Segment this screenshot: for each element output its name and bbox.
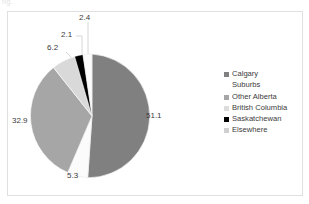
legend-label-other-alberta: Other Alberta: [232, 93, 277, 101]
data-label-other-alberta: 32.9: [12, 117, 28, 125]
legend-label-british-columbia: British Columbia: [232, 104, 287, 112]
legend-swatch-icon-saskatchewan: [224, 117, 229, 122]
pie-chart-figure: fig.: [0, 0, 309, 204]
data-label-elsewhere-upper: 2.4: [79, 14, 90, 22]
legend-swatch-icon-british-columbia: [224, 106, 229, 111]
legend-item-british-columbia[interactable]: British Columbia: [224, 104, 306, 112]
legend-label-calgary-suburbs: Calgary: [232, 70, 258, 78]
data-label-saskatchewan: 2.1: [61, 31, 72, 39]
chart-legend: Calgary Suburbs Other Alberta British Co…: [224, 70, 306, 137]
legend-item-elsewhere[interactable]: Elsewhere: [224, 126, 306, 134]
leader-line-2-1: [76, 36, 82, 56]
data-label-elsewhere-lower: 5.3: [67, 172, 78, 180]
legend-swatch-icon-calgary-suburbs: [224, 72, 229, 77]
data-label-calgary-suburbs: 51.1: [146, 112, 162, 120]
legend-item-calgary-suburbs[interactable]: Calgary: [224, 70, 306, 78]
pie-plot-area: 51.1 5.3 32.9 6.2 2.1 2.4: [0, 0, 215, 204]
legend-item-saskatchewan[interactable]: Saskatchewan: [224, 115, 306, 123]
legend-swatch-icon-elsewhere: [224, 128, 229, 133]
data-label-british-columbia: 6.2: [47, 44, 58, 52]
pie-svg: [0, 0, 215, 204]
pie-slices: [30, 54, 149, 178]
legend-item-calgary-suburbs-line2[interactable]: Suburbs: [232, 81, 306, 89]
legend-label-elsewhere: Elsewhere: [232, 126, 267, 134]
legend-label-saskatchewan: Saskatchewan: [232, 115, 281, 123]
pie-slice-calgary-suburbs[interactable]: [88, 54, 150, 178]
legend-label-calgary-suburbs-line2: Suburbs: [232, 81, 260, 89]
legend-item-other-alberta[interactable]: Other Alberta: [224, 93, 306, 101]
legend-swatch-icon-other-alberta: [224, 95, 229, 100]
